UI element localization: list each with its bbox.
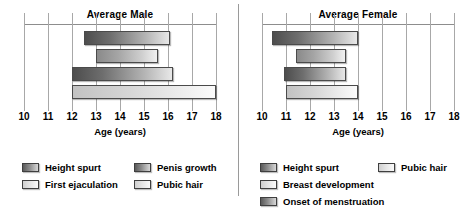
gridline-10 xyxy=(24,13,25,111)
x-tick-label-10: 10 xyxy=(251,110,273,124)
x-tick-label-13: 13 xyxy=(85,110,107,124)
chart-panel-female: Average Female 101112131415161718 Age (y… xyxy=(238,0,476,221)
legend-item-first-ejaculation[interactable]: First ejaculation xyxy=(22,177,118,192)
bar-pubic-hair xyxy=(72,85,216,99)
bar-penis-growth xyxy=(96,49,158,63)
gridline-18 xyxy=(454,13,455,111)
gridline-14 xyxy=(358,13,359,111)
legend-swatch-icon xyxy=(260,163,277,172)
x-tick-label-13: 13 xyxy=(323,110,345,124)
x-axis-title-male: Age (years) xyxy=(24,126,216,138)
legend-item-height-spurt[interactable]: Height spurt xyxy=(260,160,384,175)
legend-column-right: Pubic hair xyxy=(378,160,447,177)
x-tick-label-12: 12 xyxy=(61,110,83,124)
bar-onset-of-menstruation xyxy=(284,67,346,81)
legend-swatch-icon xyxy=(22,180,39,189)
x-tick-label-18: 18 xyxy=(443,110,465,124)
gridline-15 xyxy=(382,13,383,111)
legend-swatch-icon xyxy=(260,197,277,206)
x-tick-label-12: 12 xyxy=(299,110,321,124)
x-tick-label-14: 14 xyxy=(347,110,369,124)
x-tick-label-14: 14 xyxy=(109,110,131,124)
legend-swatch-icon xyxy=(260,180,277,189)
legend-column-left: Height spurtBreast developmentOnset of m… xyxy=(260,160,384,211)
puberty-timeline-figure: Average Male 101112131415161718 Age (yea… xyxy=(0,0,476,221)
legend-item-pubic-hair[interactable]: Pubic hair xyxy=(134,177,217,192)
x-tick-label-15: 15 xyxy=(133,110,155,124)
legend-swatch-icon xyxy=(22,163,39,172)
x-tick-label-11: 11 xyxy=(37,110,59,124)
bar-first-ejaculation xyxy=(72,67,173,81)
bar-breast-development xyxy=(296,49,346,63)
gridline-10 xyxy=(262,13,263,111)
chart-area-female: Average Female xyxy=(262,6,454,110)
legend-item-onset-of-menstruation[interactable]: Onset of menstruation xyxy=(260,194,384,209)
bar-height-spurt xyxy=(84,31,170,45)
legend-item-label: Penis growth xyxy=(157,162,217,174)
x-tick-label-10: 10 xyxy=(13,110,35,124)
x-tick-label-17: 17 xyxy=(419,110,441,124)
gridline-16 xyxy=(406,13,407,111)
x-tick-label-15: 15 xyxy=(371,110,393,124)
x-tick-label-16: 16 xyxy=(157,110,179,124)
legend-item-label: Onset of menstruation xyxy=(283,196,384,208)
gridline-17 xyxy=(430,13,431,111)
bar-pubic-hair xyxy=(286,85,358,99)
plot-area-female xyxy=(262,24,454,110)
chart-panel-male: Average Male 101112131415161718 Age (yea… xyxy=(0,0,238,221)
legend-item-label: First ejaculation xyxy=(45,179,118,191)
gridline-11 xyxy=(48,13,49,111)
legend-item-label: Pubic hair xyxy=(157,179,203,191)
legend-swatch-icon xyxy=(134,163,151,172)
x-tick-label-11: 11 xyxy=(275,110,297,124)
legend-item-label: Height spurt xyxy=(283,162,339,174)
plot-area-male xyxy=(24,24,216,110)
legend-swatch-icon xyxy=(378,163,395,172)
legend-item-label: Pubic hair xyxy=(401,162,447,174)
legend-item-pubic-hair[interactable]: Pubic hair xyxy=(378,160,447,175)
x-tick-label-18: 18 xyxy=(205,110,227,124)
legend-column-left: Height spurtFirst ejaculation xyxy=(22,160,118,194)
bar-height-spurt xyxy=(272,31,358,45)
x-tick-label-16: 16 xyxy=(395,110,417,124)
x-tick-label-17: 17 xyxy=(181,110,203,124)
legend-item-label: Breast development xyxy=(283,179,374,191)
x-axis-female: 101112131415161718 xyxy=(262,110,454,124)
legend-item-label: Height spurt xyxy=(45,162,101,174)
legend-swatch-icon xyxy=(134,180,151,189)
gridline-18 xyxy=(216,13,217,111)
legend-item-penis-growth[interactable]: Penis growth xyxy=(134,160,217,175)
legend-item-breast-development[interactable]: Breast development xyxy=(260,177,384,192)
legend-column-right: Penis growthPubic hair xyxy=(134,160,217,194)
x-axis-male: 101112131415161718 xyxy=(24,110,216,124)
chart-area-male: Average Male xyxy=(24,6,216,110)
legend-item-height-spurt[interactable]: Height spurt xyxy=(22,160,118,175)
x-axis-title-female: Age (years) xyxy=(262,126,454,138)
